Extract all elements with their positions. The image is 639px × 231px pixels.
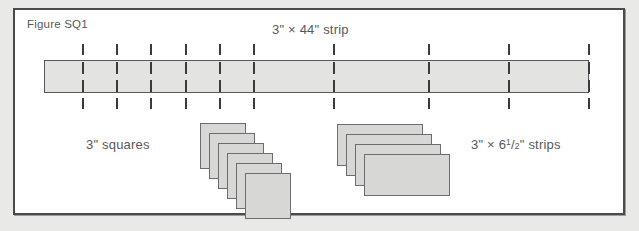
cut-mark-dash (253, 44, 255, 55)
fabric-strip-piece (364, 154, 450, 196)
cut-mark (219, 44, 221, 108)
cut-mark (82, 44, 84, 108)
cut-mark (150, 44, 152, 108)
cut-mark-dash (82, 44, 84, 55)
cut-mark-dash (82, 98, 84, 109)
cut-mark-dash (588, 80, 590, 92)
cut-mark (116, 44, 118, 108)
cut-mark-dash (428, 98, 430, 109)
cut-mark-dash (508, 62, 510, 74)
cut-mark-dash (508, 44, 510, 55)
cut-mark-dash (333, 80, 335, 92)
cut-mark-dash (219, 62, 221, 74)
fraction-one-half: 1/2 (506, 137, 520, 152)
cut-mark-dash (428, 62, 430, 74)
cut-mark-dash (185, 44, 187, 55)
short-strips-label-suffix: " strips (520, 137, 561, 152)
cut-mark-dash (428, 44, 430, 55)
cut-mark-dash (508, 80, 510, 92)
cut-mark-dash (185, 98, 187, 109)
cut-mark-dash (333, 44, 335, 55)
short-strips-label-prefix: 3" × 6 (471, 137, 506, 152)
cut-mark-dash (82, 80, 84, 92)
cut-mark-dash (150, 98, 152, 109)
cut-mark-dash (150, 44, 152, 55)
cut-mark-dash (116, 62, 118, 74)
cut-mark-dash (588, 44, 590, 55)
cut-mark (333, 44, 335, 108)
squares-label: 3" squares (86, 137, 150, 152)
cut-mark-dash (116, 80, 118, 92)
cut-mark-dash (333, 62, 335, 74)
cut-mark-dash (116, 98, 118, 109)
figure-container: Figure SQ1 3" × 44" strip 3" squares 3" … (0, 0, 639, 231)
cut-mark-dash (588, 98, 590, 109)
cut-mark-dash (82, 62, 84, 74)
cut-mark-dash (116, 44, 118, 55)
cut-mark-dash (588, 62, 590, 74)
cut-mark-dash (150, 80, 152, 92)
cut-mark-dash (333, 98, 335, 109)
cut-mark-dash (219, 98, 221, 109)
cut-mark-dash (219, 44, 221, 55)
cut-mark-dash (428, 80, 430, 92)
cut-mark-dash (185, 62, 187, 74)
cut-mark (588, 44, 590, 108)
figure-frame-border (13, 8, 625, 215)
cut-mark-dash (150, 62, 152, 74)
figure-caption: Figure SQ1 (27, 18, 88, 30)
cut-mark (253, 44, 255, 108)
cut-mark (185, 44, 187, 108)
cut-mark-dash (253, 98, 255, 109)
cut-mark-dash (253, 62, 255, 74)
cut-mark-dash (185, 80, 187, 92)
cut-mark (508, 44, 510, 108)
cut-mark-dash (508, 98, 510, 109)
long-strip-label: 3" × 44" strip (272, 22, 349, 37)
cut-mark-dash (219, 80, 221, 92)
short-strips-label: 3" × 61/2" strips (471, 137, 561, 152)
cut-mark-dash (253, 80, 255, 92)
fabric-square-piece (245, 173, 291, 219)
cut-mark (428, 44, 430, 108)
